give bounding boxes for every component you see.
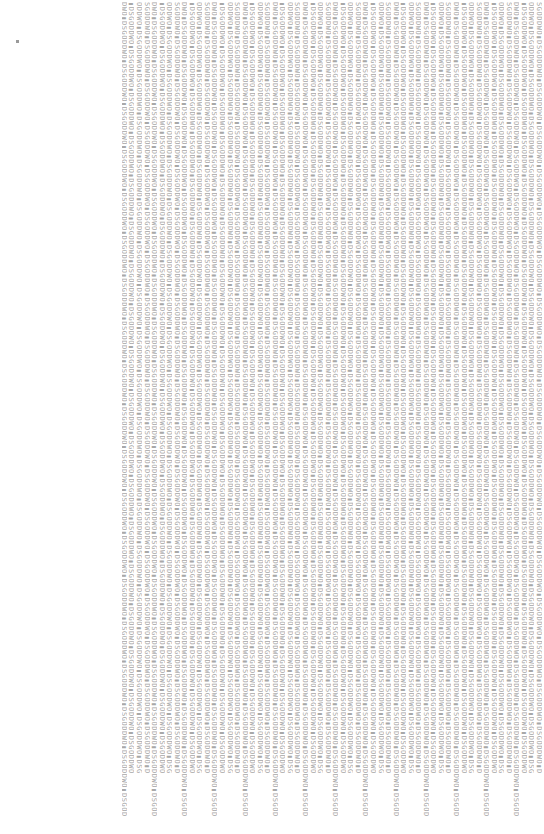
text-column: ODDWO▮DSGODDWO▮DSGODDWO▮DSGODDWO▮DSGODDW… [195, 2, 203, 832]
text-column: ▮DSGODDWO▮DSGODDWO▮DSGODDWO▮DSGODDWO▮DSG… [157, 2, 165, 832]
text-column: SGODDWO▮DSGODDWO▮DSGODDWO▮DSGODDWO▮DSGOD… [323, 2, 331, 832]
text-column: ▮DSGODDWO▮DSGODDWO▮DSGODDWO▮DSGODDWO▮DSG… [217, 2, 225, 832]
text-column: DWO▮DSGODDWO▮DSGODDWO▮DSGODDWO▮DSGODDWO▮… [421, 2, 429, 832]
text-column: ODDWO▮DSGODDWO▮DSGODDWO▮DSGODDWO▮DSGODDW… [346, 2, 354, 832]
text-column: ▮DSGODDWO▮DSGODDWO▮DSGODDWO▮DSGODDWO▮DSG… [429, 2, 437, 832]
text-column: DWO▮DSGODDWO▮DSGODDWO▮DSGODDWO▮DSGODDWO▮… [482, 2, 490, 832]
stray-mark [16, 40, 19, 43]
text-column: ODDWO▮DSGODDWO▮DSGODDWO▮DSGODDWO▮DSGODDW… [497, 2, 505, 832]
text-column: ODDWO▮DSGODDWO▮DSGODDWO▮DSGODDWO▮DSGODDW… [467, 2, 475, 832]
text-column: SGODDWO▮DSGODDWO▮DSGODDWO▮DSGODDWO▮DSGOD… [534, 2, 542, 832]
text-column: ODDWO▮DSGODDWO▮DSGODDWO▮DSGODDWO▮DSGODDW… [134, 2, 142, 832]
text-column: ▮DSGODDWO▮DSGODDWO▮DSGODDWO▮DSGODDWO▮DSG… [127, 2, 135, 832]
text-column: SGODDWO▮DSGODDWO▮DSGODDWO▮DSGODDWO▮DSGOD… [233, 2, 241, 832]
text-column: ODDWO▮DSGODDWO▮DSGODDWO▮DSGODDWO▮DSGODDW… [165, 2, 173, 832]
text-column: DWO▮DSGODDWO▮DSGODDWO▮DSGODDWO▮DSGODDWO▮… [391, 2, 399, 832]
text-column: ODDWO▮DSGODDWO▮DSGODDWO▮DSGODDWO▮DSGODDW… [316, 2, 324, 832]
text-columns: SGODDWO▮DSGODDWO▮DSGODDWO▮DSGODDWO▮DSGOD… [122, 2, 542, 832]
text-column: SGODDWO▮DSGODDWO▮DSGODDWO▮DSGODDWO▮DSGOD… [353, 2, 361, 832]
text-column: DWO▮DSGODDWO▮DSGODDWO▮DSGODDWO▮DSGODDWO▮… [240, 2, 248, 832]
text-column: ODDWO▮DSGODDWO▮DSGODDWO▮DSGODDWO▮DSGODDW… [255, 2, 263, 832]
text-column: ▮DSGODDWO▮DSGODDWO▮DSGODDWO▮DSGODDWO▮DSG… [399, 2, 407, 832]
text-column: DWO▮DSGODDWO▮DSGODDWO▮DSGODDWO▮DSGODDWO▮… [150, 2, 158, 832]
text-column: DWO▮DSGODDWO▮DSGODDWO▮DSGODDWO▮DSGODDWO▮… [301, 2, 309, 832]
text-column: SGODDWO▮DSGODDWO▮DSGODDWO▮DSGODDWO▮DSGOD… [384, 2, 392, 832]
text-column: ▮DSGODDWO▮DSGODDWO▮DSGODDWO▮DSGODDWO▮DSG… [338, 2, 346, 832]
text-column: SGODDWO▮DSGODDWO▮DSGODDWO▮DSGODDWO▮DSGOD… [414, 2, 422, 832]
text-column: ODDWO▮DSGODDWO▮DSGODDWO▮DSGODDWO▮DSGODDW… [376, 2, 384, 832]
text-column: SGODDWO▮DSGODDWO▮DSGODDWO▮DSGODDWO▮DSGOD… [444, 2, 452, 832]
text-column: ▮DSGODDWO▮DSGODDWO▮DSGODDWO▮DSGODDWO▮DSG… [368, 2, 376, 832]
text-column: SGODDWO▮DSGODDWO▮DSGODDWO▮DSGODDWO▮DSGOD… [293, 2, 301, 832]
text-column: ▮DSGODDWO▮DSGODDWO▮DSGODDWO▮DSGODDWO▮DSG… [489, 2, 497, 832]
text-column: SGODDWO▮DSGODDWO▮DSGODDWO▮DSGODDWO▮DSGOD… [202, 2, 210, 832]
text-column: SGODDWO▮DSGODDWO▮DSGODDWO▮DSGODDWO▮DSGOD… [142, 2, 150, 832]
text-column: DWO▮DSGODDWO▮DSGODDWO▮DSGODDWO▮DSGODDWO▮… [180, 2, 188, 832]
rotated-text-block: SGODDWO▮DSGODDWO▮DSGODDWO▮DSGODDWO▮DSGOD… [122, 2, 542, 832]
text-column: DWO▮DSGODDWO▮DSGODDWO▮DSGODDWO▮DSGODDWO▮… [331, 2, 339, 832]
text-column: ▮DSGODDWO▮DSGODDWO▮DSGODDWO▮DSGODDWO▮DSG… [248, 2, 256, 832]
text-column: ▮DSGODDWO▮DSGODDWO▮DSGODDWO▮DSGODDWO▮DSG… [308, 2, 316, 832]
text-column: ODDWO▮DSGODDWO▮DSGODDWO▮DSGODDWO▮DSGODDW… [225, 2, 233, 832]
text-column: ▮DSGODDWO▮DSGODDWO▮DSGODDWO▮DSGODDWO▮DSG… [459, 2, 467, 832]
text-column: ODDWO▮DSGODDWO▮DSGODDWO▮DSGODDWO▮DSGODDW… [436, 2, 444, 832]
text-column: ▮DSGODDWO▮DSGODDWO▮DSGODDWO▮DSGODDWO▮DSG… [187, 2, 195, 832]
text-column: SGODDWO▮DSGODDWO▮DSGODDWO▮DSGODDWO▮DSGOD… [263, 2, 271, 832]
text-column: ▮DSGODDWO▮DSGODDWO▮DSGODDWO▮DSGODDWO▮DSG… [278, 2, 286, 832]
text-column: DWO▮DSGODDWO▮DSGODDWO▮DSGODDWO▮DSGODDWO▮… [512, 2, 520, 832]
text-column: SGODDWO▮DSGODDWO▮DSGODDWO▮DSGODDWO▮DSGOD… [474, 2, 482, 832]
text-column: SGODDWO▮DSGODDWO▮DSGODDWO▮DSGODDWO▮DSGOD… [172, 2, 180, 832]
text-column: ODDWO▮DSGODDWO▮DSGODDWO▮DSGODDWO▮DSGODDW… [406, 2, 414, 832]
text-column: DWO▮DSGODDWO▮DSGODDWO▮DSGODDWO▮DSGODDWO▮… [210, 2, 218, 832]
text-column: DWO▮DSGODDWO▮DSGODDWO▮DSGODDWO▮DSGODDWO▮… [270, 2, 278, 832]
text-column: DWO▮DSGODDWO▮DSGODDWO▮DSGODDWO▮DSGODDWO▮… [361, 2, 369, 832]
text-column: DWO▮DSGODDWO▮DSGODDWO▮DSGODDWO▮DSGODDWO▮… [451, 2, 459, 832]
text-column: ▮DSGODDWO▮DSGODDWO▮DSGODDWO▮DSGODDWO▮DSG… [519, 2, 527, 832]
text-column: DWO▮DSGODDWO▮DSGODDWO▮DSGODDWO▮DSGODDWO▮… [122, 2, 127, 832]
text-column: ODDWO▮DSGODDWO▮DSGODDWO▮DSGODDWO▮DSGODDW… [527, 2, 535, 832]
text-column: SGODDWO▮DSGODDWO▮DSGODDWO▮DSGODDWO▮DSGOD… [504, 2, 512, 832]
text-column: ODDWO▮DSGODDWO▮DSGODDWO▮DSGODDWO▮DSGODDW… [285, 2, 293, 832]
